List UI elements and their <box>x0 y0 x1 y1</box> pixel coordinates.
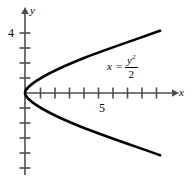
x-axis-tick-label-5: 5 <box>99 102 105 114</box>
equation-lhs: x <box>107 61 112 72</box>
y-axis-tick-label-4: 4 <box>8 27 14 39</box>
parabola-figure: 4 5 y x x = y2 2 <box>0 0 192 181</box>
y-axis-label: y <box>30 5 35 16</box>
equation-annotation: x = y2 2 <box>107 54 138 80</box>
x-axis-label: x <box>179 87 184 98</box>
y-axis-arrowhead <box>21 7 29 14</box>
equation-fraction: y2 2 <box>125 54 137 80</box>
equation-numerator: y2 <box>125 54 137 67</box>
equation-numerator-exponent: 2 <box>132 53 136 61</box>
x-axis-arrowhead <box>172 89 179 97</box>
equation-operator: = <box>116 61 122 72</box>
plot-area <box>0 0 192 181</box>
equation-denominator: 2 <box>127 68 137 80</box>
